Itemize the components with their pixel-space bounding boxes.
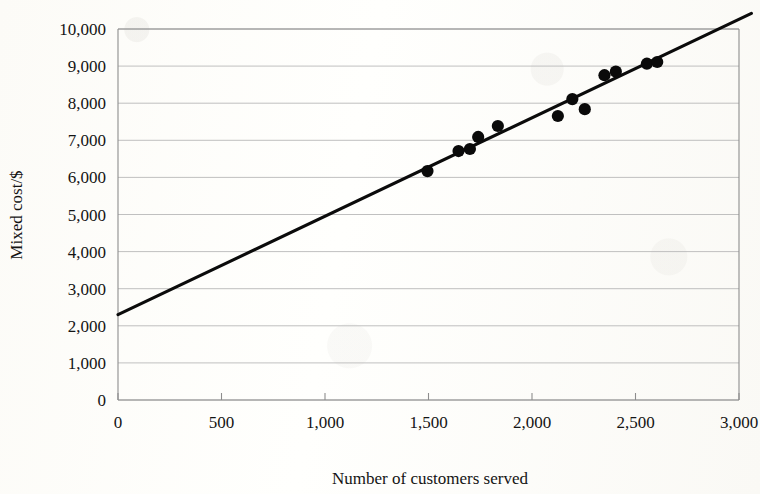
x-axis-tick-label: 0 — [114, 413, 123, 432]
x-axis-tick-label: 2,000 — [513, 413, 551, 432]
x-axis-tick-label: 3,000 — [720, 413, 758, 432]
x-axis-tick-labels: 05001,0001,5002,0002,5003,000 — [114, 413, 758, 432]
y-axis-tick-label: 0 — [98, 391, 107, 410]
data-point — [598, 69, 610, 81]
data-point — [566, 93, 578, 105]
data-point — [452, 145, 464, 157]
data-point — [651, 56, 663, 68]
y-axis-title: Mixed cost/$ — [7, 170, 26, 259]
y-axis-tick-labels: 01,0002,0003,0004,0005,0006,0007,0008,00… — [59, 20, 106, 410]
x-axis-tick-label: 1,500 — [409, 413, 447, 432]
x-axis-tick-marks — [118, 393, 739, 400]
data-point — [579, 103, 591, 115]
x-axis-tick-label: 2,500 — [616, 413, 654, 432]
y-axis-tick-label: 4,000 — [68, 243, 106, 262]
data-point — [552, 110, 564, 122]
data-point — [421, 165, 433, 177]
x-axis-tick-label: 1,000 — [306, 413, 344, 432]
y-axis-tick-label: 9,000 — [68, 57, 106, 76]
data-point — [464, 143, 476, 155]
y-axis-tick-label: 7,000 — [68, 131, 106, 150]
chart-canvas: 01,0002,0003,0004,0005,0006,0007,0008,00… — [0, 0, 760, 494]
data-point — [610, 66, 622, 78]
y-axis-tick-label: 2,000 — [68, 317, 106, 336]
y-axis-tick-label: 3,000 — [68, 280, 106, 299]
data-point — [641, 58, 653, 70]
data-point — [472, 131, 484, 143]
x-axis-tick-label: 500 — [209, 413, 235, 432]
x-axis-title: Number of customers served — [332, 469, 528, 488]
y-axis-tick-label: 8,000 — [68, 94, 106, 113]
gridlines — [118, 29, 739, 400]
y-axis-tick-label: 1,000 — [68, 354, 106, 373]
y-axis-tick-label: 6,000 — [68, 168, 106, 187]
scatter-chart: 01,0002,0003,0004,0005,0006,0007,0008,00… — [0, 0, 760, 494]
y-axis-tick-label: 5,000 — [68, 206, 106, 225]
data-point — [492, 120, 504, 132]
y-axis-tick-label: 10,000 — [59, 20, 106, 39]
